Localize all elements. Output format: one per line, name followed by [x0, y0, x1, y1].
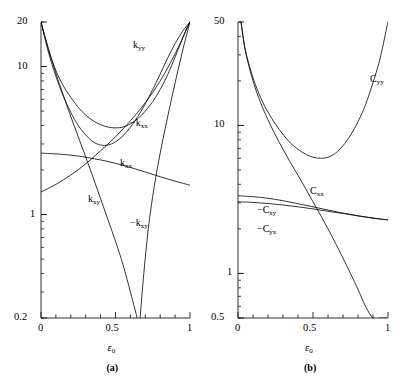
panel-b-ytick-0p5: 0.5: [211, 312, 224, 323]
panel-a-ytick-0p2: 0.2: [14, 312, 27, 323]
panel-b-tag: (b): [304, 363, 316, 373]
panel-b-ytick-50: 50: [214, 16, 225, 27]
panel-a-xtick-0p5: 0.5: [106, 323, 119, 334]
panel-a-ytick-20: 20: [17, 16, 28, 27]
panel-b-ytick-10: 10: [214, 119, 225, 130]
panel-a-curve-label-kxx: kxx: [120, 158, 132, 170]
panel-b-xtick-1: 1: [385, 323, 390, 334]
panel-b-plot: [200, 0, 400, 388]
panel-a-curve-label-kyy: kyy: [133, 40, 145, 52]
panel-b-curve-label-neg-Cxy: −Cxy: [257, 205, 276, 217]
panel-a-xaxis-title: ε0: [108, 343, 116, 355]
panel-a-curve-label-neg-kxx: −kxx: [130, 118, 148, 130]
figure-container: 20 10 1 0.2 0 0.5 1 ε0 kyy −kxx kxx kxy …: [0, 0, 400, 388]
panel-b-xtick-0: 0: [235, 323, 240, 334]
panel-a-plot: [0, 0, 200, 388]
panel-a-xtick-1: 1: [187, 323, 192, 334]
panel-a-curve-label-neg-kxy: −kxy: [130, 218, 148, 230]
panel-a-ytick-10: 10: [17, 61, 28, 72]
panel-b-xaxis-title: ε0: [305, 343, 313, 355]
panel-b: 50 10 1 0.5 0 0.5 1 ε0 Cyy Cxx −Cxy −Cyx…: [200, 0, 400, 388]
panel-a-xtick-0: 0: [38, 323, 43, 334]
panel-a-ytick-1: 1: [30, 209, 35, 220]
panel-b-xtick-0p5: 0.5: [303, 323, 316, 334]
panel-b-ytick-1: 1: [227, 267, 232, 278]
panel-a: 20 10 1 0.2 0 0.5 1 ε0 kyy −kxx kxx kxy …: [0, 0, 200, 388]
panel-b-curve-label-Cyy: Cyy: [370, 74, 384, 86]
panel-b-curve-label-Cxx: Cxx: [310, 186, 324, 198]
panel-a-tag: (a): [107, 363, 119, 373]
panel-a-curve-label-kxy: kxy: [88, 194, 100, 206]
panel-b-curve-label-neg-Cyx: −Cyx: [257, 224, 276, 236]
